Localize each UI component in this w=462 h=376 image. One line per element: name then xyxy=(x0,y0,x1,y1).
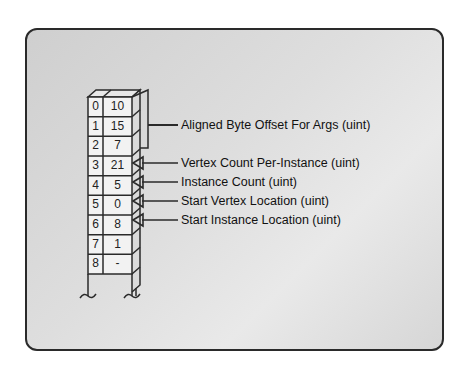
row-value: 21 xyxy=(103,156,132,175)
row-index: 7 xyxy=(88,235,103,254)
row-index: 8 xyxy=(88,254,103,273)
row-value: - xyxy=(103,254,132,273)
row-value: 5 xyxy=(103,176,132,195)
row-index: 0 xyxy=(88,97,103,116)
row-value: 0 xyxy=(103,195,132,214)
row-index: 5 xyxy=(88,195,103,214)
label-start-instance: Start Instance Location (uint) xyxy=(181,213,341,227)
row-index: 2 xyxy=(88,136,103,155)
row-index: 6 xyxy=(88,215,103,234)
label-instance-count: Instance Count (uint) xyxy=(181,175,297,189)
row-index: 1 xyxy=(88,117,103,136)
row-index: 4 xyxy=(88,176,103,195)
row-index: 3 xyxy=(88,156,103,175)
label-start-vertex: Start Vertex Location (uint) xyxy=(181,194,329,208)
row-value: 15 xyxy=(103,117,132,136)
row-value: 8 xyxy=(103,215,132,234)
label-vertex-count: Vertex Count Per-Instance (uint) xyxy=(181,156,360,170)
row-value: 10 xyxy=(103,97,132,116)
row-value: 7 xyxy=(103,136,132,155)
row-value: 1 xyxy=(103,235,132,254)
label-offset: Aligned Byte Offset For Args (uint) xyxy=(181,118,370,132)
